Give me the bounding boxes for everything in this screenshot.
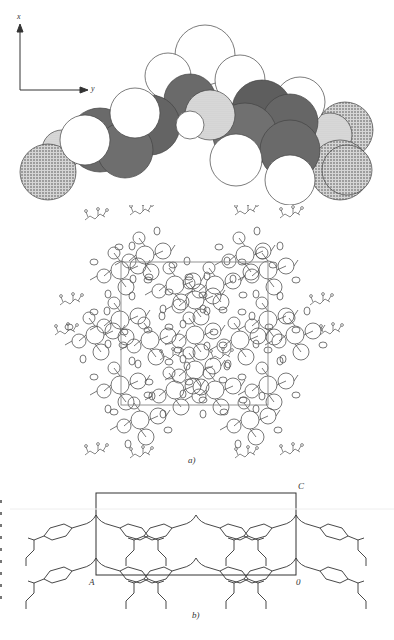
- axis-label-y: y: [91, 84, 95, 93]
- caption-a: a): [188, 455, 196, 465]
- space-filling-model: [0, 0, 394, 205]
- molecule-clusters: [65, 227, 327, 448]
- cell-label-origin: 0: [296, 577, 301, 587]
- molecule-row-lower: [26, 558, 366, 609]
- crystal-packing-panel-a: a): [0, 205, 394, 480]
- cell-label-a: A: [89, 577, 95, 587]
- caption-b: b): [192, 610, 200, 620]
- axis-arrows: [17, 24, 88, 93]
- axis-label-x: x: [17, 12, 21, 21]
- space-filling-model-panel: x y: [0, 0, 394, 205]
- page-edge-marks: [0, 500, 4, 620]
- cell-label-c: C: [298, 481, 304, 491]
- packing-projection-panel-b: C A 0 b): [0, 480, 394, 640]
- crystal-packing-diagram: [0, 205, 394, 480]
